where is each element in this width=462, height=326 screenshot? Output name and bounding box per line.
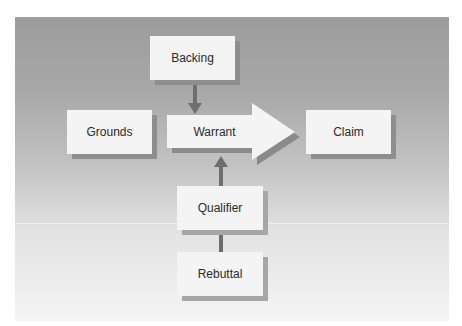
qualifier-label: Qualifier xyxy=(198,201,243,215)
claim-node: Claim xyxy=(306,110,391,154)
grounds-node: Grounds xyxy=(67,110,152,154)
rebuttal-node: Rebuttal xyxy=(177,252,263,296)
backing-label: Backing xyxy=(171,51,214,65)
warrant-node: Warrant xyxy=(167,115,262,148)
claim-label: Claim xyxy=(333,125,364,139)
rebuttal-label: Rebuttal xyxy=(198,267,243,281)
grounds-label: Grounds xyxy=(86,125,132,139)
rebuttal-connector xyxy=(219,234,223,252)
up-arrow-icon xyxy=(214,156,228,186)
down-arrow-icon xyxy=(188,85,202,114)
warrant-label: Warrant xyxy=(193,125,235,139)
backing-node: Backing xyxy=(150,36,235,80)
qualifier-node: Qualifier xyxy=(177,186,263,230)
